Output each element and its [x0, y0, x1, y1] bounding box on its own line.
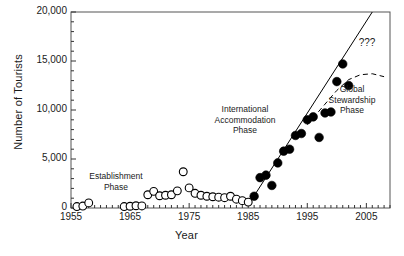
y-tick-label: 20,000: [13, 5, 67, 16]
data-point: [297, 129, 306, 138]
x-tick-label: 1965: [107, 211, 153, 222]
establishment-phase-label: Establishment Phase: [73, 171, 159, 192]
x-axis-title: Year: [175, 229, 198, 241]
data-point: [285, 145, 294, 154]
data-point: [173, 187, 181, 195]
international-accommodation-phase-label: International Accommodation Phase: [200, 104, 290, 136]
data-point: [85, 199, 93, 207]
global-stewardship-phase-label: Global Stewardship Phase: [316, 84, 388, 116]
x-tick-label: 1955: [48, 211, 94, 222]
data-point: [268, 181, 277, 190]
x-tick-label: 2005: [343, 211, 389, 222]
data-point: [338, 60, 347, 69]
data-point: [250, 192, 259, 201]
x-tick-label: 1995: [284, 211, 330, 222]
data-point: [138, 202, 146, 210]
tourism-phases-scatter-chart: 05,00010,00015,00020,000 195519651975198…: [0, 0, 404, 256]
data-point: [315, 133, 324, 142]
x-tick-label: 1975: [166, 211, 212, 222]
y-axis-title: Number of Tourists: [12, 22, 24, 182]
data-point: [262, 171, 271, 180]
uncertainty-label: ???: [352, 38, 382, 49]
data-point: [273, 159, 282, 168]
x-tick-label: 1985: [225, 211, 271, 222]
data-point: [179, 168, 187, 176]
